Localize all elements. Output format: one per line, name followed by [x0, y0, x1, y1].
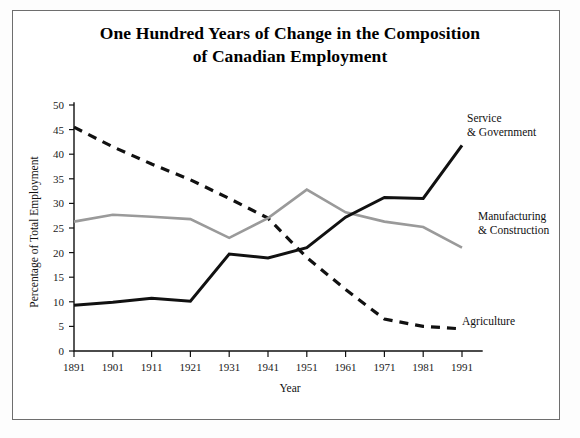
x-tick-label: 1911: [141, 361, 163, 373]
series-label-agriculture-line-1: Agriculture: [462, 315, 515, 328]
x-tick-labels: 1891190119111921193119411951196119711981…: [63, 361, 473, 373]
series-label-agriculture: Agriculture: [462, 315, 515, 328]
x-tick-label: 1991: [451, 361, 473, 373]
figure-container: One Hundred Years of Change in the Compo…: [0, 0, 580, 438]
y-tick-label: 5: [59, 320, 65, 332]
y-tick-marks: [69, 105, 74, 351]
series-label-manufacturing-line-2: & Construction: [478, 224, 549, 236]
x-tick-label: 1961: [335, 361, 357, 373]
y-tick-label: 35: [53, 173, 65, 185]
x-tick-marks: [74, 351, 462, 357]
series-label-service-line-2: & Government: [467, 126, 537, 138]
series-label-manufacturing-line-1: Manufacturing: [478, 210, 547, 223]
y-axis-title: Percentage of Total Employment: [28, 156, 41, 308]
x-tick-label: 1921: [179, 361, 201, 373]
series-line-agriculture: [74, 127, 462, 329]
x-axis-title: Year: [279, 382, 300, 394]
x-tick-label: 1931: [218, 361, 240, 373]
x-tick-label: 1951: [296, 361, 318, 373]
y-tick-label: 10: [53, 296, 65, 308]
x-tick-label: 1971: [373, 361, 395, 373]
axes: 05101520253035404550 1891190119111921193…: [53, 99, 482, 373]
x-tick-label: 1891: [63, 361, 85, 373]
y-tick-label: 45: [53, 124, 65, 136]
data-series-group: [74, 127, 462, 329]
chart-plot: 05101520253035404550 1891190119111921193…: [0, 0, 580, 438]
x-tick-label: 1901: [102, 361, 124, 373]
y-tick-label: 40: [53, 148, 65, 160]
y-tick-label: 25: [53, 222, 65, 234]
y-tick-label: 30: [53, 197, 65, 209]
series-label-service-line-1: Service: [467, 112, 501, 124]
series-label-service: Service & Government: [467, 112, 537, 138]
x-tick-label: 1981: [412, 361, 434, 373]
y-tick-label: 20: [53, 247, 65, 259]
x-tick-label: 1941: [257, 361, 279, 373]
y-tick-labels: 05101520253035404550: [53, 99, 65, 357]
y-tick-label: 50: [53, 99, 65, 111]
y-tick-label: 15: [53, 271, 65, 283]
series-label-manufacturing: Manufacturing & Construction: [478, 210, 549, 236]
y-tick-label: 0: [59, 345, 65, 357]
